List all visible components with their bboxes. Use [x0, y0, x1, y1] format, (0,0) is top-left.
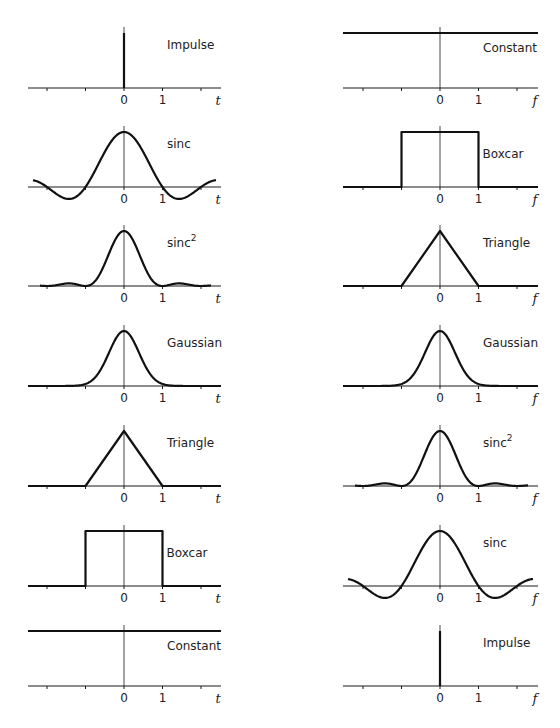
axis-variable-label: t	[215, 93, 221, 108]
panel-right-1: 01fConstant	[343, 27, 540, 108]
tick-label-1: 1	[159, 691, 167, 705]
tick-label-1: 1	[159, 93, 167, 107]
tick-label-0: 0	[120, 291, 128, 305]
panel-right-7: 01fImpulse	[343, 625, 540, 706]
tick-label-0: 0	[436, 691, 444, 705]
tick-label-1: 1	[159, 591, 167, 605]
tick-label-1: 1	[475, 691, 483, 705]
tick-label-1: 1	[475, 93, 483, 107]
function-name-label: Gaussian	[167, 336, 222, 350]
function-name-label: Constant	[483, 41, 537, 55]
function-name-label: Triangle	[166, 436, 214, 450]
panel-right-6: 01fsinc	[343, 525, 540, 606]
axis-variable-label: t	[215, 192, 221, 207]
axis-variable-label: f	[532, 591, 540, 606]
axis-variable-label: t	[215, 691, 221, 706]
function-name-label: Boxcar	[483, 147, 524, 161]
tick-label-1: 1	[159, 391, 167, 405]
panel-left-1: 01tImpulse	[28, 27, 221, 108]
function-name-label: sinc2	[483, 433, 513, 450]
tick-label-0: 0	[120, 591, 128, 605]
axis-variable-label: f	[532, 391, 540, 406]
tick-label-0: 0	[436, 93, 444, 107]
panel-left-7: 01tConstant	[28, 625, 221, 706]
tick-label-0: 0	[436, 591, 444, 605]
axis-variable-label: t	[215, 291, 221, 306]
tick-label-0: 0	[436, 192, 444, 206]
panel-right-3: 01fTriangle	[343, 225, 540, 306]
tick-label-1: 1	[475, 591, 483, 605]
axis-variable-label: f	[532, 93, 540, 108]
panel-left-2: 01tsinc	[28, 126, 221, 207]
tick-label-1: 1	[475, 192, 483, 206]
panel-left-6: 01tBoxcar	[28, 525, 221, 606]
panel-left-4: 01tGaussian	[28, 325, 222, 406]
panel-right-5: 01fsinc2	[343, 425, 540, 506]
superscript: 2	[507, 433, 513, 443]
superscript: 2	[191, 233, 197, 243]
tick-label-0: 0	[120, 192, 128, 206]
function-name-label: sinc2	[167, 233, 197, 250]
panel-right-4: 01fGaussian	[343, 325, 540, 406]
tick-label-1: 1	[159, 291, 167, 305]
panel-left-5: 01tTriangle	[28, 425, 221, 506]
tick-label-1: 1	[475, 391, 483, 405]
function-name-label: Impulse	[483, 636, 530, 650]
fourier-pairs-figure: 01tImpulse01tsinc01tsinc201tGaussian01tT…	[0, 0, 560, 728]
tick-label-0: 0	[436, 291, 444, 305]
tick-label-1: 1	[475, 291, 483, 305]
tick-label-1: 1	[159, 192, 167, 206]
tick-label-1: 1	[475, 491, 483, 505]
function-name-label: sinc	[483, 536, 507, 550]
tick-label-0: 0	[120, 491, 128, 505]
tick-label-0: 0	[436, 391, 444, 405]
function-name-label: Gaussian	[483, 336, 538, 350]
axis-variable-label: f	[532, 691, 540, 706]
function-name-label: Impulse	[167, 38, 214, 52]
function-name-label: sinc	[167, 137, 191, 151]
function-name-label: Triangle	[482, 236, 530, 250]
axis-variable-label: t	[215, 491, 221, 506]
tick-label-1: 1	[159, 491, 167, 505]
tick-label-0: 0	[120, 391, 128, 405]
function-name-label: Constant	[167, 639, 221, 653]
panel-left-3: 01tsinc2	[28, 225, 221, 306]
tick-label-0: 0	[120, 93, 128, 107]
axis-variable-label: t	[215, 391, 221, 406]
function-name-label: Boxcar	[167, 546, 208, 560]
tick-label-0: 0	[120, 691, 128, 705]
tick-label-0: 0	[436, 491, 444, 505]
panel-right-2: 01fBoxcar	[343, 126, 540, 207]
axis-variable-label: t	[215, 591, 221, 606]
axis-variable-label: f	[532, 192, 540, 207]
axis-variable-label: f	[532, 291, 540, 306]
axis-variable-label: f	[532, 491, 540, 506]
